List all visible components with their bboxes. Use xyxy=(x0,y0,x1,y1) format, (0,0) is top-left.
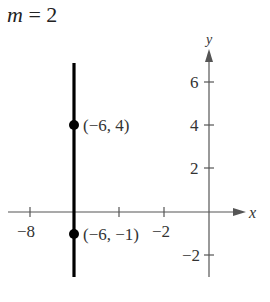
chart-plot: x y −8 −2 6 4 2 −2 (−6, 4) (−6, −1) xyxy=(0,0,270,302)
y-tick-label: −2 xyxy=(182,246,200,265)
point-label: (−6, −1) xyxy=(83,225,139,244)
y-axis-label: y xyxy=(204,32,213,47)
point-label: (−6, 4) xyxy=(83,116,129,135)
x-tick-label: −2 xyxy=(152,222,170,241)
point-marker xyxy=(69,120,79,130)
y-tick-label: 4 xyxy=(190,116,199,135)
y-axis-arrow-icon xyxy=(205,49,213,62)
x-axis-label: x xyxy=(248,204,256,221)
y-tick-label: 2 xyxy=(190,159,199,178)
point-marker xyxy=(69,229,79,239)
x-axis-arrow-icon xyxy=(233,208,246,216)
y-tick-label: 6 xyxy=(190,73,199,92)
x-tick-label: −8 xyxy=(17,222,35,241)
